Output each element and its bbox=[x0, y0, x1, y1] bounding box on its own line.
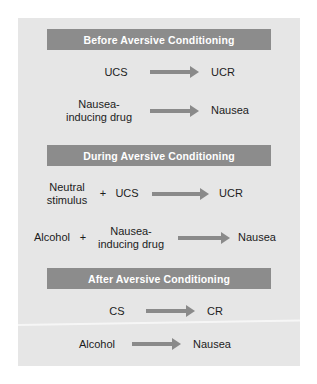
table-row: UCS UCR bbox=[94, 66, 263, 79]
row-left-term: Alcohol bbox=[30, 231, 74, 244]
row-left-term: Nausea- inducing drug bbox=[60, 98, 138, 123]
row-right-term: UCR bbox=[219, 187, 259, 200]
arrow-right-icon bbox=[146, 305, 195, 317]
table-row: Neutral stimulus + UCS UCR bbox=[40, 181, 259, 206]
table-row: Alcohol Nausea bbox=[74, 338, 245, 351]
scan-artifact-streak bbox=[18, 320, 300, 326]
row-left-term: UCS bbox=[94, 66, 138, 79]
arrow-right-icon bbox=[132, 338, 181, 350]
row-right-term: UCR bbox=[211, 66, 263, 79]
table-row: Alcohol + Nausea- inducing drug Nausea bbox=[30, 225, 282, 250]
row-left-term: Alcohol bbox=[74, 338, 120, 351]
row-plus-sign: + bbox=[94, 187, 112, 200]
arrow-right-icon bbox=[178, 232, 230, 244]
section-header-before: Before Aversive Conditioning bbox=[47, 29, 271, 50]
section-header-after: After Aversive Conditioning bbox=[47, 268, 271, 289]
row-plus-sign: + bbox=[74, 231, 92, 244]
arrow-right-icon bbox=[150, 66, 199, 78]
arrow-right-icon bbox=[152, 188, 209, 200]
table-row: Nausea- inducing drug Nausea bbox=[60, 98, 263, 123]
row-right-term: Nausea bbox=[193, 338, 245, 351]
row-left-term: Neutral stimulus bbox=[40, 181, 94, 206]
row-right-term: CR bbox=[207, 305, 251, 318]
section-header-during: During Aversive Conditioning bbox=[47, 145, 271, 166]
row-right-term: Nausea bbox=[211, 104, 263, 117]
row-left-term: CS bbox=[100, 305, 134, 318]
row-right-term: Nausea bbox=[238, 231, 282, 244]
arrow-right-icon bbox=[150, 105, 199, 117]
table-row: CS CR bbox=[100, 305, 251, 318]
row-middle-term: UCS bbox=[112, 187, 142, 200]
aversive-conditioning-diagram: Before Aversive Conditioning UCS UCR Nau… bbox=[18, 18, 300, 366]
row-middle-term: Nausea- inducing drug bbox=[92, 225, 170, 250]
